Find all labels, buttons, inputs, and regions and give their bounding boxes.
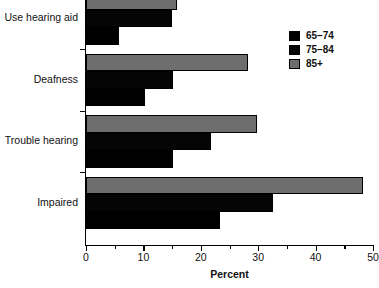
x-axis-title: Percent — [86, 269, 373, 280]
category-label: Impaired — [37, 197, 78, 208]
x-axis-tick-minor — [115, 246, 116, 249]
bar — [86, 54, 248, 72]
bar — [86, 212, 220, 230]
legend-swatch-icon — [289, 31, 300, 41]
category-label: Deafness — [34, 74, 78, 85]
y-axis-tick — [80, 49, 85, 50]
y-axis-line — [85, 0, 86, 246]
bar — [86, 10, 172, 28]
legend-item: 75–84 — [289, 43, 334, 56]
x-axis-tick-minor — [344, 246, 345, 249]
x-axis-tick-minor — [172, 246, 173, 249]
bar — [86, 27, 119, 45]
x-axis-tick-label: 20 — [195, 252, 207, 263]
legend-item: 85+ — [289, 57, 334, 70]
legend-label: 85+ — [306, 59, 323, 69]
legend-item: 65–74 — [289, 29, 334, 42]
legend-swatch-icon — [289, 59, 300, 69]
bar — [86, 177, 363, 195]
legend-label: 65–74 — [306, 31, 334, 41]
x-axis-tick-label: 50 — [367, 252, 379, 263]
legend-swatch-icon — [289, 45, 300, 55]
y-axis-tick — [80, 111, 85, 112]
legend-label: 75–84 — [306, 45, 334, 55]
bar — [86, 71, 173, 89]
x-axis-tick-label: 10 — [138, 252, 150, 263]
x-axis-tick-label: 40 — [310, 252, 322, 263]
bar — [86, 150, 173, 168]
legend: 65–7475–8485+ — [289, 29, 334, 71]
bar — [86, 115, 257, 133]
category-label: Use hearing aid — [4, 12, 78, 23]
category-label: Trouble hearing — [5, 135, 78, 146]
bar — [86, 89, 145, 107]
x-axis-tick-label: 30 — [252, 252, 264, 263]
bar — [86, 0, 177, 10]
x-axis-tick-minor — [230, 246, 231, 249]
category-axis-labels: Use hearing aidDeafnessTrouble hearingIm… — [0, 0, 78, 246]
bar — [86, 194, 273, 212]
x-axis-tick-label: 0 — [83, 252, 89, 263]
y-axis-tick — [80, 172, 85, 173]
bar — [86, 133, 211, 151]
x-axis-tick-minor — [287, 246, 288, 249]
